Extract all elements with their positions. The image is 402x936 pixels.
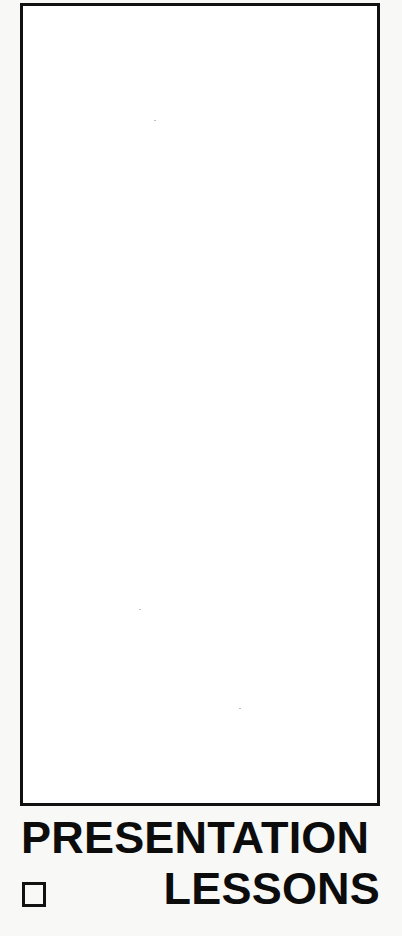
blank-content-frame	[20, 3, 380, 806]
title-presentation: PRESENTATION	[21, 815, 381, 860]
dust-speck	[154, 120, 156, 121]
empty-checkbox-icon[interactable]	[22, 882, 46, 907]
dust-speck	[139, 609, 141, 610]
dust-speck	[239, 708, 241, 709]
title-lessons: LESSONS	[164, 866, 380, 911]
